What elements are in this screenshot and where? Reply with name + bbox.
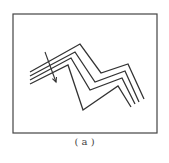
zigzag-line (30, 58, 135, 104)
zigzag-lines (30, 44, 144, 110)
figure-caption: ( a ) (0, 136, 169, 147)
